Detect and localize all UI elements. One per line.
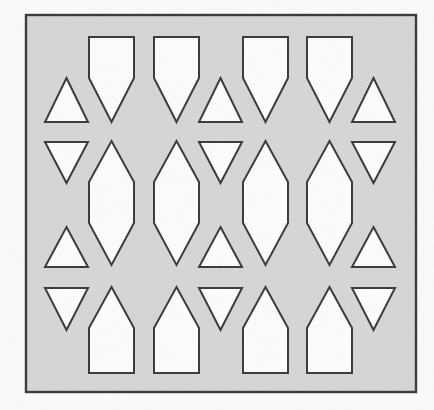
breeze-block-pattern xyxy=(0,0,434,410)
scanned-pattern-image xyxy=(0,0,434,410)
scan-grain-overlay xyxy=(0,0,434,410)
